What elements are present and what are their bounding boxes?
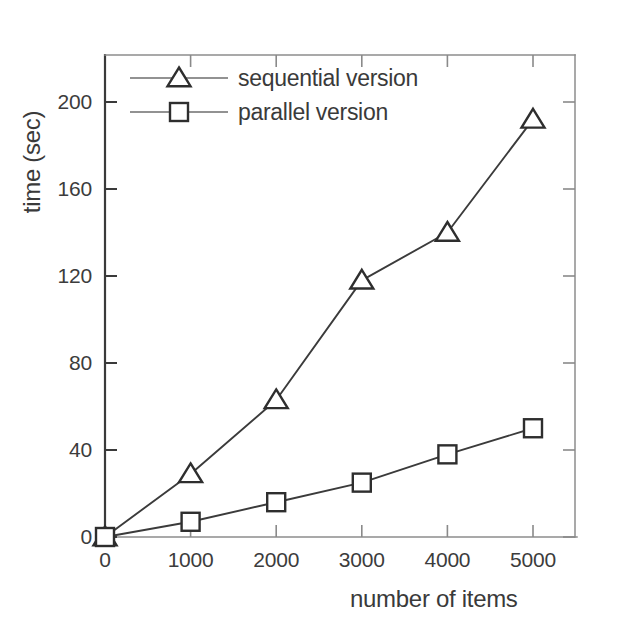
square-marker [524, 419, 542, 437]
square-marker [170, 103, 188, 121]
axes-group [105, 55, 577, 537]
triangle-marker [522, 109, 545, 128]
x-tick-label-0: 0 [99, 548, 110, 572]
y-tick-label-40: 40 [30, 438, 92, 462]
y-tick-label-120: 120 [30, 264, 92, 288]
chart-figure: time (sec) number of items 0408012016020… [0, 0, 618, 638]
series-sequential-version [94, 109, 545, 545]
x-axis-label: number of items [350, 585, 518, 613]
x-tick-label-1000: 1000 [168, 548, 214, 572]
legend-marker-group [130, 68, 228, 122]
legend-label-1: parallel version [238, 99, 388, 126]
x-tick-marks [191, 55, 533, 537]
chart-canvas [0, 0, 618, 638]
y-tick-marks [105, 102, 575, 537]
x-tick-label-5000: 5000 [510, 548, 556, 572]
y-tick-label-160: 160 [30, 177, 92, 201]
y-tick-label-0: 0 [30, 525, 92, 549]
y-tick-label-80: 80 [30, 351, 92, 375]
triangle-marker [436, 222, 459, 241]
triangle-marker [350, 270, 373, 289]
triangle-marker [168, 68, 191, 87]
x-tick-label-3000: 3000 [339, 548, 385, 572]
square-marker [267, 493, 285, 511]
square-marker [96, 528, 114, 546]
legend-label-0: sequential version [238, 65, 418, 92]
series-line-0 [105, 119, 533, 537]
x-tick-label-2000: 2000 [253, 548, 299, 572]
square-marker [353, 474, 371, 492]
series-parallel-version [96, 419, 542, 546]
square-marker [182, 513, 200, 531]
data-series-group [94, 109, 545, 546]
x-tick-label-4000: 4000 [424, 548, 470, 572]
triangle-marker [265, 389, 288, 408]
series-line-1 [105, 428, 533, 537]
square-marker [438, 445, 456, 463]
y-tick-label-200: 200 [30, 90, 92, 114]
